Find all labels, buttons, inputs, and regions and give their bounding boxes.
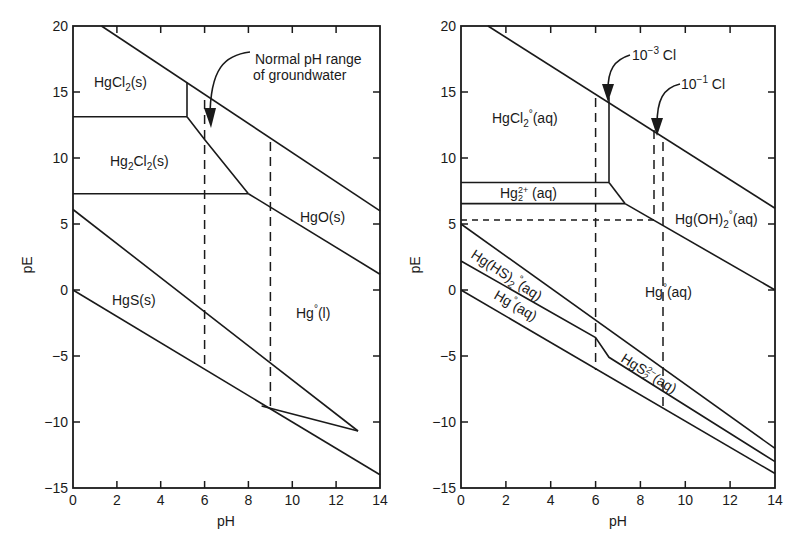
right-diagram: 0 2 4 6 8 10 12 14 20 15 10 5 0 −5 −10 −… <box>407 18 783 529</box>
right-x-ticks <box>506 26 730 488</box>
label-hgcl2-aq: HgCl2°(aq) <box>492 108 558 129</box>
left-x-axis-label: pH <box>217 513 235 529</box>
label-hgo-s: HgO(s) <box>300 209 345 225</box>
groundwater-note-line2: of groundwater <box>253 67 347 83</box>
arrowhead-icon <box>651 118 663 136</box>
left-y-ticks <box>73 92 380 422</box>
right-boundaries <box>461 26 775 474</box>
svg-text:4: 4 <box>547 492 555 508</box>
svg-text:20: 20 <box>440 18 456 34</box>
svg-text:0: 0 <box>60 282 68 298</box>
svg-text:0: 0 <box>448 282 456 298</box>
svg-text:0: 0 <box>69 492 77 508</box>
left-diagram: 0 2 4 6 8 10 12 14 20 15 10 5 0 −5 −10 −… <box>19 18 388 529</box>
label-cl-1e-3: 10−3 Cl <box>632 45 676 63</box>
right-x-tick-labels: 0 2 4 6 8 10 12 14 <box>457 492 783 508</box>
svg-text:2: 2 <box>502 492 510 508</box>
svg-text:14: 14 <box>372 492 388 508</box>
svg-text:10: 10 <box>52 150 68 166</box>
svg-text:−10: −10 <box>432 414 456 430</box>
svg-text:−10: −10 <box>44 414 68 430</box>
svg-text:10: 10 <box>440 150 456 166</box>
right-y-tick-labels: 20 15 10 5 0 −5 −10 −15 <box>432 18 456 496</box>
label-hg2cl2-s: Hg2Cl2(s) <box>110 153 169 172</box>
label-hg2-2plus-aq: Hg22+ (aq) <box>500 185 557 203</box>
svg-text:20: 20 <box>52 18 68 34</box>
label-hgoh2-aq: Hg(OH)2°(aq) <box>675 209 758 230</box>
label-hgs-s: HgS(s) <box>112 292 156 308</box>
svg-text:−15: −15 <box>44 480 68 496</box>
eh-ph-diagrams: 0 2 4 6 8 10 12 14 20 15 10 5 0 −5 −10 −… <box>0 0 800 545</box>
svg-text:6: 6 <box>201 492 209 508</box>
svg-text:5: 5 <box>448 216 456 232</box>
svg-text:6: 6 <box>592 492 600 508</box>
right-x-axis-label: pH <box>609 513 627 529</box>
label-cl-1e-1: 10−1 Cl <box>681 74 725 92</box>
svg-text:−5: −5 <box>52 348 68 364</box>
svg-text:15: 15 <box>440 84 456 100</box>
arrowhead-icon <box>204 108 216 128</box>
svg-text:8: 8 <box>637 492 645 508</box>
label-hg0-aq-upper: Hg°(aq) <box>645 282 692 300</box>
svg-text:2: 2 <box>113 492 121 508</box>
groundwater-arrow <box>210 52 250 118</box>
svg-text:12: 12 <box>722 492 738 508</box>
left-x-tick-labels: 0 2 4 6 8 10 12 14 <box>69 492 388 508</box>
svg-text:0: 0 <box>457 492 465 508</box>
svg-text:−5: −5 <box>440 348 456 364</box>
svg-text:5: 5 <box>60 216 68 232</box>
right-y-axis-label: pE <box>407 256 423 273</box>
groundwater-note-line1: Normal pH range <box>255 51 362 67</box>
left-boundaries <box>73 26 380 475</box>
svg-text:14: 14 <box>767 492 783 508</box>
label-hgcl2-s: HgCl2(s) <box>94 74 147 93</box>
svg-text:−15: −15 <box>432 480 456 496</box>
label-hg-l: Hg°(l) <box>296 303 330 321</box>
left-plot-frame <box>73 26 380 488</box>
svg-text:10: 10 <box>678 492 694 508</box>
left-x-ticks <box>117 26 336 488</box>
svg-text:12: 12 <box>328 492 344 508</box>
svg-text:10: 10 <box>285 492 301 508</box>
svg-text:8: 8 <box>245 492 253 508</box>
svg-text:4: 4 <box>157 492 165 508</box>
left-y-tick-labels: 20 15 10 5 0 −5 −10 −15 <box>44 18 68 496</box>
left-y-axis-label: pE <box>19 256 35 273</box>
svg-text:15: 15 <box>52 84 68 100</box>
